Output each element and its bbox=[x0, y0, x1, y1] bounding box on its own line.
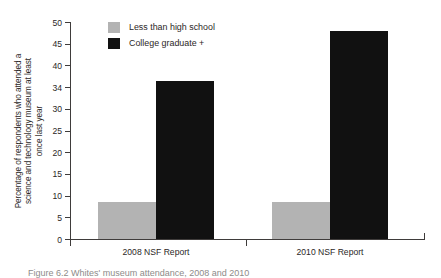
y-axis-tick-label: 0 bbox=[57, 235, 62, 244]
y-axis-tick: 5 bbox=[65, 217, 70, 218]
legend: Less than high school College graduate + bbox=[108, 19, 215, 51]
y-axis-tick-label: 45 bbox=[52, 40, 62, 49]
y-axis-tick: 15 bbox=[65, 174, 70, 175]
y-axis-tick: 34 bbox=[65, 87, 70, 88]
figure-caption-clipped: Figure 6.2 Whites' museum attendance, 20… bbox=[28, 269, 428, 278]
y-axis-tick: 45 bbox=[65, 44, 70, 45]
x-axis-tick bbox=[70, 240, 71, 246]
y-axis-tick: 40 bbox=[65, 65, 70, 66]
y-axis-tick: 25 bbox=[65, 131, 70, 132]
y-axis-tick-label: 50 bbox=[52, 18, 62, 27]
legend-item-college-graduate: College graduate + bbox=[108, 35, 215, 51]
y-axis-title-line-1: Percentage of respondents who attended a bbox=[14, 54, 24, 209]
x-axis-group-label: 2008 NSF Report bbox=[123, 248, 190, 257]
y-axis-title: Percentage of respondents who attended a… bbox=[14, 18, 46, 244]
figure-container: Percentage of respondents who attended a… bbox=[0, 0, 441, 278]
legend-label-college-graduate: College graduate + bbox=[129, 39, 204, 48]
y-axis-line bbox=[70, 22, 71, 240]
y-axis-tick: 10 bbox=[65, 196, 70, 197]
plot-area: 05101520253034404550 2008 NSF Report2010… bbox=[70, 22, 425, 240]
y-axis-title-line-3: once last year bbox=[35, 54, 45, 209]
y-axis-title-line-2: science and technology museum at least bbox=[25, 54, 35, 209]
y-axis-tick: 50 bbox=[65, 22, 70, 23]
bar bbox=[98, 202, 156, 239]
bar bbox=[156, 81, 214, 239]
x-axis-end-tick bbox=[424, 233, 425, 240]
y-axis-tick-label: 30 bbox=[52, 105, 62, 114]
legend-swatch-less-than-high-school bbox=[108, 22, 120, 33]
y-axis-tick-label: 34 bbox=[52, 83, 62, 92]
legend-swatch-college-graduate bbox=[108, 38, 120, 49]
x-axis-line bbox=[70, 239, 425, 240]
legend-item-less-than-high-school: Less than high school bbox=[108, 19, 215, 35]
bar bbox=[330, 31, 388, 239]
y-axis-tick-label: 10 bbox=[52, 192, 62, 201]
y-axis-tick: 30 bbox=[65, 109, 70, 110]
y-axis-tick-label: 25 bbox=[52, 127, 62, 136]
y-axis-tick-label: 40 bbox=[52, 62, 62, 71]
y-axis-tick-label: 20 bbox=[52, 148, 62, 157]
bar bbox=[272, 202, 330, 239]
x-axis-group-label: 2010 NSF Report bbox=[297, 248, 364, 257]
y-axis-tick: 20 bbox=[65, 152, 70, 153]
x-axis-tick bbox=[246, 240, 247, 246]
y-axis-tick-label: 15 bbox=[52, 170, 62, 179]
figure-caption-text: Figure 6.2 Whites' museum attendance, 20… bbox=[28, 269, 249, 278]
legend-label-less-than-high-school: Less than high school bbox=[129, 23, 215, 32]
y-axis-tick-label: 5 bbox=[57, 214, 62, 223]
